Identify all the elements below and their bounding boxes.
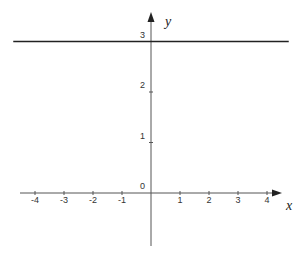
y-tick-label: 3 [140, 30, 145, 40]
x-axis-arrow [272, 190, 282, 197]
y-tick-label: 1 [140, 131, 145, 141]
x-tick-label: 3 [235, 195, 240, 205]
x-tick-label: -3 [60, 195, 68, 205]
axes [20, 12, 282, 246]
x-tick-label: -2 [89, 195, 97, 205]
x-tick-label: 1 [177, 195, 182, 205]
x-tick-label: -4 [31, 195, 39, 205]
x-tick-label: -1 [118, 195, 126, 205]
ticks: -4-3-2-112340123 [31, 30, 270, 206]
y-axis-label: y [163, 14, 172, 29]
y-axis-arrow [148, 12, 155, 22]
y-tick-label: 0 [140, 181, 145, 191]
x-tick-label: 4 [264, 195, 269, 205]
x-axis-label: x [285, 198, 293, 213]
x-tick-label: 2 [206, 195, 211, 205]
y-tick-label: 2 [140, 80, 145, 90]
chart: -4-3-2-112340123 x y [0, 0, 307, 256]
